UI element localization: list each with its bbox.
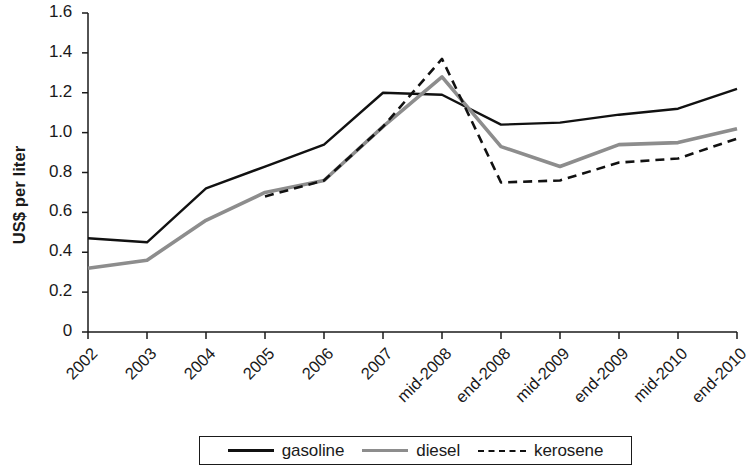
data-series-group — [88, 59, 737, 268]
legend-item-kerosene: kerosene — [469, 441, 612, 461]
legend-item-gasoline: gasoline — [219, 441, 354, 461]
legend-label-gasoline: gasoline — [282, 441, 345, 461]
series-line-kerosene — [265, 59, 737, 197]
chart-legend: gasoline diesel kerosene — [199, 436, 632, 465]
series-line-diesel — [88, 77, 737, 268]
legend-label-diesel: diesel — [416, 441, 460, 461]
axis-tick-marks — [82, 13, 737, 339]
line-chart: US$ per liter 00.20.40.60.81.01.21.41.6 … — [0, 0, 749, 471]
legend-item-diesel: diesel — [353, 441, 469, 461]
axis-lines — [88, 13, 737, 332]
series-line-gasoline — [88, 89, 737, 243]
legend-swatch-gasoline-icon — [228, 449, 274, 452]
legend-swatch-kerosene-icon — [478, 450, 526, 452]
legend-label-kerosene: kerosene — [534, 441, 603, 461]
plot-area — [0, 0, 749, 471]
legend-swatch-diesel-icon — [362, 449, 408, 452]
